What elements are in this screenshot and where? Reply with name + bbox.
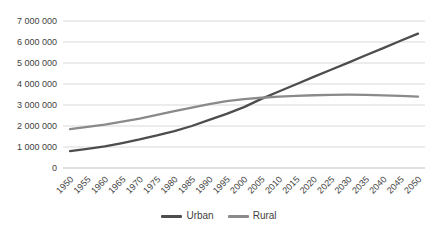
y-axis-tick-label: 2 000 000 bbox=[17, 121, 57, 131]
population-line-chart[interactable]: 01 000 0002 000 0003 000 0004 000 0005 0… bbox=[0, 0, 438, 234]
y-axis-tick-label: 4 000 000 bbox=[17, 79, 57, 89]
y-axis-tick-label: 1 000 000 bbox=[17, 142, 57, 152]
x-axis-tick-label: 2045 bbox=[385, 174, 406, 195]
x-axis-tick-label: 1995 bbox=[211, 174, 232, 195]
x-axis-tick-label: 2005 bbox=[246, 174, 267, 195]
rural-series-swatch bbox=[228, 215, 249, 218]
x-axis-tick-label: 1980 bbox=[159, 174, 180, 195]
x-axis-tick-label: 2040 bbox=[367, 174, 388, 195]
rural-series-line bbox=[70, 95, 418, 129]
x-axis-tick-label: 1975 bbox=[141, 174, 162, 195]
x-axis-tick-label: 1990 bbox=[193, 174, 214, 195]
x-axis-tick-label: 2030 bbox=[333, 174, 354, 195]
x-axis-tick-label: 2025 bbox=[315, 174, 336, 195]
legend-item-urban[interactable]: Urban bbox=[161, 211, 213, 221]
x-axis-tick-label: 1965 bbox=[106, 174, 127, 195]
plot-area: 01 000 0002 000 0003 000 0004 000 0005 0… bbox=[0, 0, 438, 234]
x-axis-tick-label: 1970 bbox=[124, 174, 145, 195]
y-axis-tick-label: 7 000 000 bbox=[17, 16, 57, 26]
legend: Urban Rural bbox=[0, 207, 438, 225]
y-axis-tick-label: 5 000 000 bbox=[17, 58, 57, 68]
x-axis-tick-label: 2050 bbox=[402, 174, 423, 195]
x-axis-tick-label: 2035 bbox=[350, 174, 371, 195]
x-axis-tick-label: 2010 bbox=[263, 174, 284, 195]
x-axis-tick-label: 2020 bbox=[298, 174, 319, 195]
x-axis-tick-label: 1950 bbox=[54, 174, 75, 195]
legend-item-rural[interactable]: Rural bbox=[228, 211, 277, 221]
x-axis-tick-label: 1960 bbox=[89, 174, 110, 195]
x-axis-tick-label: 1985 bbox=[176, 174, 197, 195]
x-axis-tick-label: 2000 bbox=[228, 174, 249, 195]
y-axis-tick-label: 6 000 000 bbox=[17, 37, 57, 47]
x-axis-tick-label: 1955 bbox=[72, 174, 93, 195]
rural-legend-label: Rural bbox=[253, 211, 277, 221]
y-axis-tick-label: 0 bbox=[52, 163, 57, 173]
urban-series-line bbox=[70, 34, 418, 152]
y-axis-tick-label: 3 000 000 bbox=[17, 100, 57, 110]
urban-series-swatch bbox=[161, 215, 182, 218]
urban-legend-label: Urban bbox=[186, 211, 213, 221]
x-axis-tick-label: 2015 bbox=[280, 174, 301, 195]
